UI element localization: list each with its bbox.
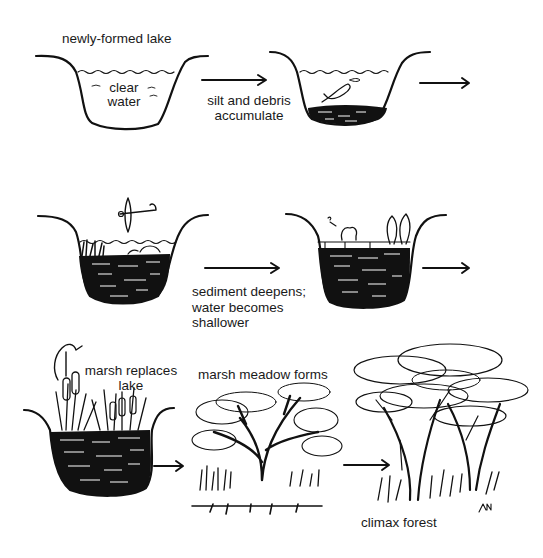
- label-sediment-line-2: water becomes: [192, 300, 306, 316]
- arrow-1: [202, 75, 266, 85]
- lake-basin-3: [38, 198, 208, 304]
- label-climax-forest: climax forest: [361, 515, 437, 530]
- label-silt-line-2: accumulate: [196, 108, 302, 123]
- label-clear-water: clear water: [100, 81, 148, 109]
- diagram-artwork: [0, 0, 543, 558]
- label-silt-and-debris: silt and debris accumulate: [196, 93, 302, 123]
- marsh-meadow-drawing: [192, 383, 342, 514]
- label-newly-formed-lake: newly-formed lake: [62, 31, 172, 46]
- label-clear-water-line-2: water: [100, 95, 148, 109]
- arrow-4: [423, 263, 469, 273]
- lake-basin-4: [286, 214, 446, 308]
- label-silt-line-1: silt and debris: [196, 93, 302, 108]
- arrow-2: [420, 78, 469, 88]
- label-marsh-line-1: marsh replaces: [78, 363, 184, 378]
- arrow-3: [205, 263, 279, 273]
- label-clear-water-line-1: clear: [100, 81, 148, 95]
- label-marsh-meadow-forms: marsh meadow forms: [198, 367, 328, 382]
- succession-diagram: newly-formed lake clear water silt and d…: [0, 0, 543, 558]
- label-sediment-line-1: sediment deepens;: [192, 284, 306, 300]
- arrow-6: [344, 460, 389, 470]
- arrow-5: [154, 461, 183, 471]
- climax-forest-drawing: [354, 344, 528, 512]
- label-sediment-line-3: shallower: [192, 315, 306, 331]
- label-marsh-line-2: lake: [78, 378, 184, 393]
- label-sediment-deepens: sediment deepens; water becomes shallowe…: [192, 284, 306, 331]
- label-marsh-replaces-lake: marsh replaces lake: [78, 363, 184, 393]
